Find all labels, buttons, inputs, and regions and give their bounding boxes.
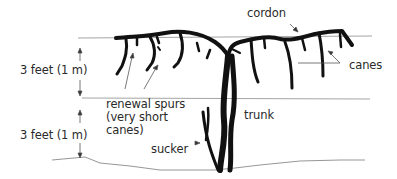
right-cordon-arm bbox=[228, 31, 352, 56]
canes-label: canes bbox=[349, 59, 382, 72]
renewal-spur bbox=[340, 34, 341, 47]
renewal-spur bbox=[207, 50, 210, 58]
renewal-spur bbox=[302, 38, 305, 50]
lower-dimension-label: 3 feet (1 m) bbox=[20, 129, 87, 142]
cane bbox=[147, 37, 154, 70]
cordon-label: cordon bbox=[247, 7, 286, 20]
upper-dimension-label: 3 feet (1 m) bbox=[20, 64, 87, 77]
renewal-spurs-label: renewal spurs (very short canes) bbox=[106, 98, 185, 137]
renewal-spurs-line-3: canes) bbox=[106, 124, 185, 137]
trunk-label: trunk bbox=[244, 109, 274, 122]
cane bbox=[251, 39, 258, 82]
renewal-spur bbox=[158, 47, 160, 50]
cane bbox=[285, 42, 292, 88]
renewal-spur bbox=[264, 38, 265, 48]
renewal-spur bbox=[232, 49, 240, 53]
vine-training-diagram: cordon canes 3 feet (1 m) 3 feet (1 m) r… bbox=[0, 0, 397, 179]
cane bbox=[319, 33, 323, 76]
sucker-label: sucker bbox=[151, 143, 188, 156]
ground-line bbox=[52, 157, 365, 170]
left-cordon-arm bbox=[116, 32, 228, 56]
cane bbox=[117, 39, 127, 74]
trunk bbox=[220, 56, 228, 170]
renewal-spur bbox=[197, 43, 199, 51]
cane bbox=[174, 33, 182, 67]
